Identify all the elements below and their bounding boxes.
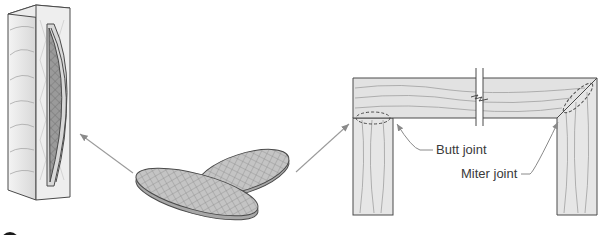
butt-joint-leader bbox=[397, 124, 433, 150]
frame-top-rail bbox=[353, 78, 597, 118]
butt-joint-label: Butt joint bbox=[436, 143, 487, 156]
slotted-board bbox=[8, 5, 70, 200]
cropped-marker-icon bbox=[1, 232, 19, 235]
biscuit-joint-figure: Butt joint Miter joint bbox=[0, 0, 608, 235]
arrow-to-slot bbox=[80, 134, 133, 173]
arrow-to-butt-joint bbox=[296, 124, 349, 172]
loose-biscuits bbox=[131, 140, 294, 230]
miter-joint-leader bbox=[521, 122, 558, 174]
frame-left-leg bbox=[353, 118, 393, 215]
miter-joint-label: Miter joint bbox=[461, 167, 517, 180]
figure-canvas bbox=[0, 0, 608, 235]
